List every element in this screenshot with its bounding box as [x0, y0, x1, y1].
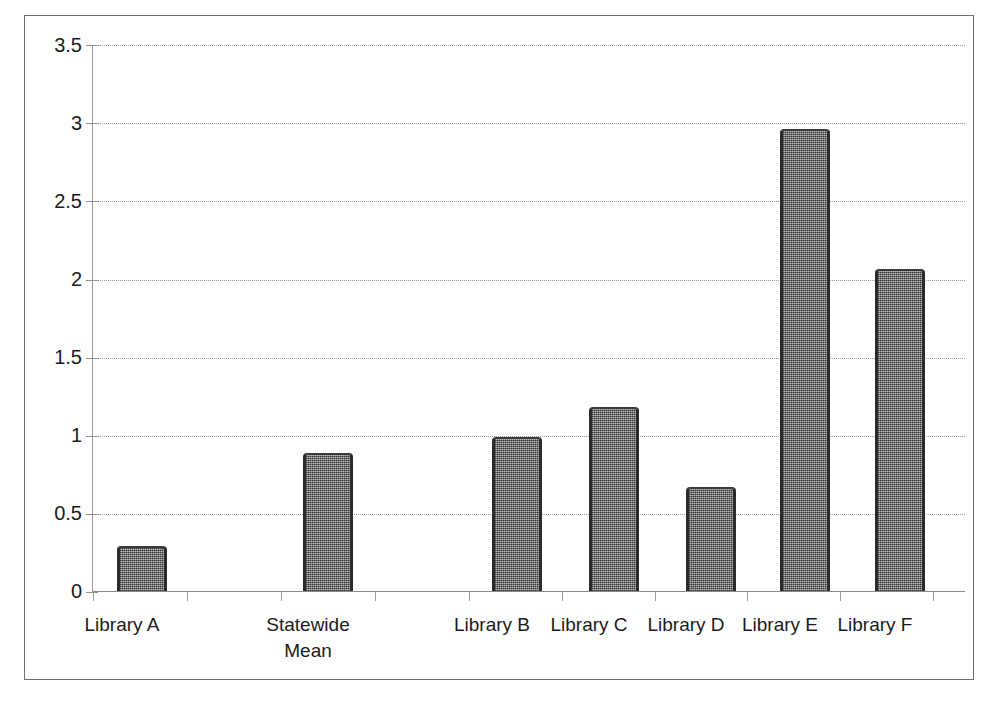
gridline-1.5: [93, 358, 965, 359]
x-label-statewide-mean: Statewide Mean: [258, 612, 358, 663]
bar-library-d[interactable]: [686, 487, 736, 591]
y-tick-label-3: 3: [71, 113, 82, 133]
x-label-library-a: Library A: [72, 612, 172, 638]
x-label-library-c: Library C: [539, 612, 639, 638]
y-tick-label-0: 0: [71, 581, 82, 601]
x-tick-mark-2: [281, 592, 282, 601]
x-tick-mark-8: [840, 592, 841, 601]
bar-library-c[interactable]: [589, 407, 639, 591]
plot-area: [93, 45, 965, 591]
x-label-library-d: Library D: [636, 612, 736, 638]
y-tick-label-2.5: 2.5: [54, 191, 82, 211]
y-axis-labels: 3.5 3 2.5 2 1.5 1 0.5 0: [30, 0, 82, 713]
gridline-2.5: [93, 201, 965, 202]
bar-library-f[interactable]: [875, 269, 925, 591]
x-tick-mark-1: [187, 592, 188, 601]
gridline-0: [93, 591, 965, 592]
x-tick-mark-4: [469, 592, 470, 601]
x-label-library-e: Library E: [730, 612, 830, 638]
gridline-3.5: [93, 45, 965, 46]
gridline-3: [93, 123, 965, 124]
bar-statewide-mean[interactable]: [303, 453, 353, 591]
bar-library-e[interactable]: [780, 129, 830, 591]
x-tick-mark-7: [747, 592, 748, 601]
x-tick-mark-3: [375, 592, 376, 601]
y-tick-label-2: 2: [71, 269, 82, 289]
x-label-library-b: Library B: [442, 612, 542, 638]
x-label-library-f: Library F: [825, 612, 925, 638]
y-tick-mark-0: [86, 592, 98, 593]
y-tick-label-0.5: 0.5: [54, 503, 82, 523]
x-tick-mark-5: [562, 592, 563, 601]
bar-library-b[interactable]: [492, 437, 542, 591]
x-tick-mark-0: [93, 592, 94, 601]
gridline-2: [93, 280, 965, 281]
figure-container: 3.5 3 2.5 2 1.5 1 0.5 0: [0, 0, 1001, 713]
x-tick-mark-6: [655, 592, 656, 601]
y-tick-label-1.5: 1.5: [54, 347, 82, 367]
bar-library-a[interactable]: [117, 546, 167, 591]
x-tick-mark-9: [933, 592, 934, 601]
y-tick-label-1: 1: [71, 425, 82, 445]
y-tick-label-3.5: 3.5: [54, 35, 82, 55]
